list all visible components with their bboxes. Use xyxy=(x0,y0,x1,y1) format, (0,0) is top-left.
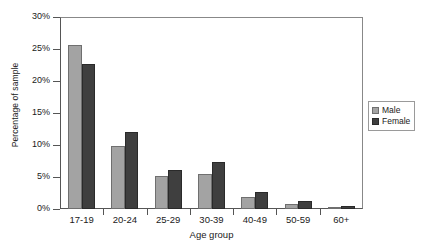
bar-female-25-29 xyxy=(168,170,182,209)
y-axis-title-text: Percentage of sample xyxy=(10,62,20,147)
bar-female-60+ xyxy=(341,206,355,209)
y-axis-tick-label: 25% xyxy=(2,44,50,53)
bar-female-50-59 xyxy=(298,201,312,209)
y-axis-tick-label: 15% xyxy=(2,108,50,117)
legend-label-male: Male xyxy=(382,106,400,115)
bar-male-50-59 xyxy=(285,204,299,209)
legend-swatch-female-icon xyxy=(372,118,379,125)
legend-item-female: Female xyxy=(372,116,410,127)
y-axis-tick xyxy=(53,209,60,210)
bar-male-20-24 xyxy=(111,146,125,209)
bars-layer xyxy=(60,17,363,209)
bar-female-17-19 xyxy=(82,64,96,209)
bar-female-40-49 xyxy=(255,192,269,209)
bar-male-17-19 xyxy=(68,45,82,209)
legend-label-female: Female xyxy=(382,117,410,126)
y-axis-tick-label: 20% xyxy=(2,76,50,85)
bar-chart: Percentage of sample 0%5%10%15%20%25%30%… xyxy=(0,0,427,251)
bar-male-60+ xyxy=(328,207,342,209)
legend-item-male: Male xyxy=(372,105,410,116)
x-axis-title: Age group xyxy=(60,229,363,240)
y-axis-tick-label: 30% xyxy=(2,12,50,21)
y-axis-tick-label: 0% xyxy=(2,204,50,213)
y-axis-tick xyxy=(53,81,60,82)
y-axis-tick xyxy=(53,49,60,50)
y-axis-tick xyxy=(53,145,60,146)
x-axis-category-label: 60+ xyxy=(311,214,371,225)
bar-male-40-49 xyxy=(241,197,255,209)
y-axis-tick-label: 5% xyxy=(2,172,50,181)
y-axis-tick-label: 10% xyxy=(2,140,50,149)
bar-male-30-39 xyxy=(198,174,212,209)
chart-legend: Male Female xyxy=(368,101,415,131)
bar-female-30-39 xyxy=(212,162,226,209)
y-axis-tick xyxy=(53,177,60,178)
bar-male-25-29 xyxy=(155,176,169,209)
y-axis-tick xyxy=(53,17,60,18)
legend-swatch-male-icon xyxy=(372,107,379,114)
bar-female-20-24 xyxy=(125,132,139,209)
y-axis-tick xyxy=(53,113,60,114)
